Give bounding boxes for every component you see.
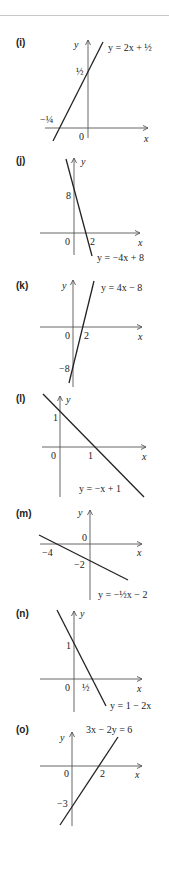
tick-label: 0 <box>51 450 56 461</box>
y-axis-label: y <box>77 507 83 518</box>
y-axis-label: y <box>65 394 71 405</box>
graph-m: (m)yx0−4−2y = −½x − 2 <box>16 507 147 600</box>
tick-label: 1 <box>88 450 93 461</box>
x-axis-label: x <box>137 237 143 248</box>
tick-label: −8 <box>59 363 70 374</box>
tick-label: −4 <box>42 547 53 558</box>
tick-label: 2 <box>84 330 89 341</box>
part-label: (k) <box>16 280 28 291</box>
x-axis-label: x <box>141 451 147 462</box>
graph-l: (l)yx110y = −x + 1 <box>16 393 147 497</box>
graph-line <box>60 737 118 825</box>
tick-label: 1 <box>66 640 71 651</box>
tick-label: ½ <box>76 66 84 77</box>
tick-label: 0 <box>65 236 70 247</box>
graph-i: (i)yx½−¼0y = 2x + ½ <box>16 37 152 144</box>
tick-label: −3 <box>57 798 68 809</box>
tick-label: 8 <box>66 190 71 201</box>
part-label: (l) <box>16 393 25 404</box>
y-axis-label: y <box>73 39 79 50</box>
tick-label: 0 <box>79 131 84 142</box>
y-axis-label: y <box>61 280 67 291</box>
graph-line <box>43 394 144 497</box>
y-axis-label: y <box>59 732 65 743</box>
equation-label: y = 1 − 2x <box>110 700 151 711</box>
x-axis-label: x <box>137 331 143 342</box>
graph-j: (j)yx820y = −4x + 8 <box>16 155 144 263</box>
equation-label: y = −4x + 8 <box>97 252 144 263</box>
tick-label: 2 <box>90 236 95 247</box>
tick-label: 0 <box>64 768 69 779</box>
equation-label: y = 4x − 8 <box>101 282 142 293</box>
tick-label: 0 <box>65 682 70 693</box>
equation-label: y = −½x − 2 <box>98 589 147 600</box>
graph-n: (n)yx1½0y = 1 − 2x <box>16 608 151 712</box>
tick-label: 1 <box>53 412 58 423</box>
tick-label: −¼ <box>40 114 54 125</box>
equation-label: y = −x + 1 <box>79 483 121 494</box>
y-axis-label: y <box>80 156 86 167</box>
graph-o: (o)yx02−33x − 2y = 6 <box>16 724 142 826</box>
tick-label: 0 <box>82 532 87 543</box>
part-label: (j) <box>16 155 25 166</box>
tick-label: ½ <box>82 682 90 693</box>
tick-label: 0 <box>65 330 70 341</box>
x-axis-label: x <box>143 133 149 144</box>
x-axis-label: x <box>134 769 140 780</box>
x-axis-label: x <box>136 547 142 558</box>
tick-label: 2 <box>100 768 105 779</box>
part-label: (n) <box>16 608 29 619</box>
graph-k: (k)yx20−8y = 4x − 8 <box>16 280 143 387</box>
x-axis-label: x <box>136 683 142 694</box>
part-label: (o) <box>16 724 29 735</box>
graph-collection: (i)yx½−¼0y = 2x + ½(j)yx820y = −4x + 8(k… <box>0 0 169 872</box>
y-axis-label: y <box>79 608 85 619</box>
equation-label: y = 2x + ½ <box>108 42 152 53</box>
graph-line <box>53 42 103 141</box>
equation-label: 3x − 2y = 6 <box>86 724 132 735</box>
part-label: (i) <box>16 37 25 48</box>
tick-label: −2 <box>74 559 85 570</box>
part-label: (m) <box>16 508 32 519</box>
